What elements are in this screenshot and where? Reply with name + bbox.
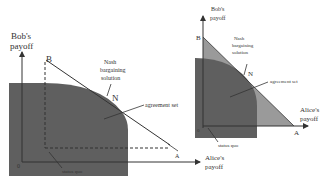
- right-point-n: N: [248, 70, 253, 78]
- left-x-label-1: Alice's: [205, 154, 224, 162]
- right-nash-2: bargaining: [232, 43, 254, 48]
- left-origin: 0: [17, 163, 20, 169]
- right-nash-3: solution: [232, 50, 249, 55]
- left-x-label-2: payoff: [205, 163, 224, 171]
- right-point-b: B: [196, 34, 201, 42]
- right-agreement-label: agreement set: [270, 79, 298, 84]
- left-nash-1: Nash: [104, 59, 116, 65]
- right-x-label-1: Alice's: [300, 106, 319, 114]
- right-y-label-2: payoff: [210, 15, 226, 21]
- left-panel: Bob's payoff B Nash bargaining solution …: [9, 31, 178, 176]
- left-status-quo: status quo: [62, 169, 83, 174]
- left-agreement-label: agreement set: [145, 102, 178, 108]
- left-point-b: B: [46, 54, 52, 64]
- left-point-n: N: [112, 93, 119, 103]
- left-frontier-ext: [168, 144, 178, 151]
- left-panel-bottom-labels: A Alice's payoff: [168, 144, 224, 171]
- left-point-a: A: [175, 153, 180, 159]
- right-y-label-1: Bob's: [211, 6, 225, 12]
- nash-bargaining-diagram: Bob's payoff B Nash bargaining solution …: [0, 0, 330, 187]
- left-nash-pointer: [107, 84, 111, 96]
- right-nash-pointer: [244, 64, 247, 75]
- right-point-a: A: [294, 129, 299, 137]
- left-nash-3: solution: [101, 75, 120, 81]
- left-y-label-1: Bob's: [11, 31, 32, 41]
- right-status-quo: status quo: [218, 143, 239, 148]
- right-nash-1: Nash: [234, 36, 245, 41]
- left-nash-2: bargaining: [100, 67, 126, 73]
- right-panel: Bob's payoff B Nash bargaining solution …: [195, 6, 319, 148]
- left-y-label-2: payoff: [10, 41, 33, 51]
- right-x-label-2: payoff: [300, 115, 319, 123]
